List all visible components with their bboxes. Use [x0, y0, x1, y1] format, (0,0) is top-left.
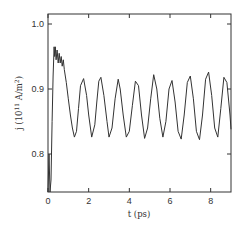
y-axis-ticks: 0.80.91.0 [31, 19, 231, 159]
x-tick-label: 6 [167, 196, 172, 206]
x-tick-label: 8 [208, 196, 213, 206]
y-axis-label: j (1011 A/m2) [13, 76, 24, 131]
x-tick-label: 0 [45, 196, 50, 206]
x-tick-label: 2 [86, 196, 91, 206]
x-tick-label: 4 [127, 196, 132, 206]
x-axis-label: t (ps) [128, 209, 151, 219]
y-tick-label: 1.0 [31, 19, 44, 29]
y-tick-label: 0.9 [31, 84, 44, 94]
data-line [48, 47, 231, 192]
x-axis-ticks: 02468 [45, 14, 213, 206]
line-chart: 02468 0.80.91.0 t (ps) j (1011 A/m2) [0, 0, 244, 231]
y-tick-label: 0.8 [31, 149, 44, 159]
